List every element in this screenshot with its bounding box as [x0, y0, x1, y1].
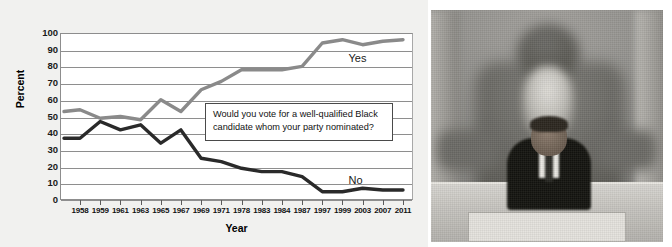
x-tick-label-1983: 1983: [253, 206, 270, 215]
photo-panel: [428, 0, 672, 247]
x-tick-1987: [302, 200, 303, 205]
y-tick-30: 30: [32, 145, 58, 155]
x-tick-label-1965: 1965: [152, 206, 169, 215]
x-tick-label-1984: 1984: [273, 206, 290, 215]
x-tick-1971: [221, 200, 222, 205]
x-axis-title: Year: [60, 222, 413, 234]
x-tick-1965: [161, 200, 162, 205]
photo-speaker-tie: [545, 152, 553, 182]
y-tick-80: 80: [32, 62, 58, 72]
x-tick-1961: [120, 200, 121, 205]
figure-container: Percent 1009080706050403020100 195819591…: [0, 0, 672, 247]
y-tick-40: 40: [32, 128, 58, 138]
x-tick-2003: [363, 200, 364, 205]
y-axis-tick-labels: 1009080706050403020100: [28, 33, 58, 200]
x-tick-1978: [242, 200, 243, 205]
x-tick-label-1967: 1967: [172, 206, 189, 215]
question-callout: Would you vote for a well-qualified Blac…: [205, 103, 393, 141]
y-axis-title: Percent: [14, 44, 26, 134]
x-tick-label-1961: 1961: [112, 206, 129, 215]
x-tick-label-1971: 1971: [213, 206, 230, 215]
y-tick-60: 60: [32, 95, 58, 105]
chart-panel: Percent 1009080706050403020100 195819591…: [0, 0, 428, 247]
x-tick-2011: [403, 200, 404, 205]
y-tick-70: 70: [32, 78, 58, 88]
x-tick-label-2011: 2011: [395, 206, 412, 215]
photo-speaker-hair: [530, 116, 568, 132]
x-tick-label-1987: 1987: [294, 206, 311, 215]
x-axis-tick-labels: 1958195919611963196519671969197119781983…: [60, 206, 413, 219]
x-tick-1963: [141, 200, 142, 205]
series-label-yes: Yes: [348, 52, 366, 64]
obama-lincoln-memorial-photo: [431, 10, 663, 242]
x-tick-1969: [201, 200, 202, 205]
x-tick-1958: [80, 200, 81, 205]
x-tick-label-2003: 2003: [354, 206, 371, 215]
y-tick-100: 100: [32, 28, 58, 38]
y-tick-10: 10: [32, 179, 58, 189]
x-tick-label-2007: 2007: [374, 206, 391, 215]
x-tick-label-1963: 1963: [132, 206, 149, 215]
y-tick-90: 90: [32, 45, 58, 55]
series-label-no: No: [348, 174, 362, 186]
x-tick-1959: [100, 200, 101, 205]
x-tick-label-1978: 1978: [233, 206, 250, 215]
x-tick-1967: [181, 200, 182, 205]
y-tick-50: 50: [32, 112, 58, 122]
photo-statue-arm-right: [595, 130, 657, 170]
x-tick-1997: [322, 200, 323, 205]
x-tick-1999: [342, 200, 343, 205]
y-tick-20: 20: [32, 162, 58, 172]
x-tick-label-1959: 1959: [92, 206, 109, 215]
x-tick-2007: [383, 200, 384, 205]
x-tick-label-1999: 1999: [334, 206, 351, 215]
x-tick-label-1969: 1969: [193, 206, 210, 215]
x-tick-label-1958: 1958: [72, 206, 89, 215]
photo-statue-arm-left: [437, 130, 499, 170]
x-tick-1983: [262, 200, 263, 205]
x-tick-label-1997: 1997: [314, 206, 331, 215]
y-tick-0: 0: [32, 195, 58, 205]
x-tick-1984: [282, 200, 283, 205]
